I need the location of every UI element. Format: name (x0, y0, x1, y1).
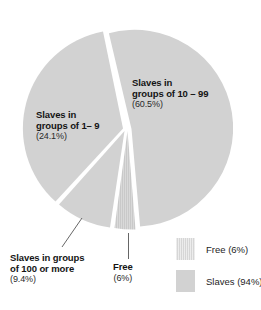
slice-label-line2: groups of 10 – 99 (132, 89, 208, 100)
legend-label-slaves: Slaves (94%) (206, 276, 261, 287)
pie-chart: Slaves in groups of 10 – 99 (60.5%) Slav… (0, 0, 261, 310)
slice-label-line1: Free (113, 262, 133, 273)
legend-item-free[interactable]: Free (6%) (176, 238, 248, 260)
legend-item-slaves[interactable]: Slaves (94%) (176, 270, 261, 292)
legend-swatch-slaves-icon (176, 270, 195, 292)
slice-label-percent: (60.5%) (132, 99, 208, 109)
leader-line-slaves-100-or-more (62, 218, 82, 247)
slice-label-percent: (24.1%) (36, 131, 100, 141)
legend-swatch-free-icon (176, 238, 195, 260)
slice-label-percent: (9.4%) (10, 274, 84, 284)
slice-label-free: Free (6%) (113, 262, 133, 283)
slice-label-slaves-100-or-more: Slaves in groups of 100 or more (9.4%) (10, 253, 84, 284)
slice-label-slaves-10-99: Slaves in groups of 10 – 99 (60.5%) (132, 78, 208, 109)
slice-label-slaves-1-9: Slaves in groups of 1– 9 (24.1%) (36, 110, 100, 141)
legend-label-free: Free (6%) (206, 244, 248, 255)
slice-label-line2: groups of 1– 9 (36, 121, 100, 132)
slice-label-line2: of 100 or more (10, 264, 84, 275)
slice-label-percent: (6%) (113, 273, 133, 283)
chart-legend: Free (6%) Slaves (94%) (176, 238, 261, 298)
